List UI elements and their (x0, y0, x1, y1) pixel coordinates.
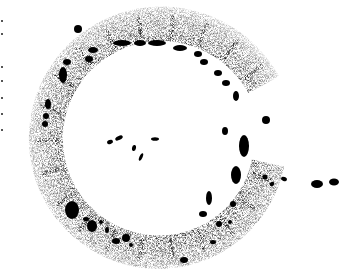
dark-blob (231, 166, 241, 184)
scattered-fragments (106, 134, 339, 188)
edge-mark (1, 80, 3, 82)
dark-blob (200, 59, 208, 65)
dark-blob (83, 217, 89, 221)
dark-blob (88, 47, 98, 53)
dark-blob (180, 257, 188, 263)
fragment (106, 139, 113, 145)
dark-blob (262, 116, 270, 124)
fragment (151, 137, 159, 141)
dark-blob (112, 238, 120, 244)
edge-mark (1, 97, 3, 99)
fragment (138, 153, 144, 162)
dark-blob (45, 99, 51, 109)
dark-blob (222, 127, 228, 135)
dark-blob (214, 70, 222, 76)
dark-blob (230, 201, 236, 207)
fragment (329, 179, 339, 186)
dark-blob (239, 135, 249, 157)
dark-blob (99, 220, 103, 224)
dark-blob (65, 201, 79, 219)
edge-marks (1, 20, 3, 131)
dark-blob (85, 56, 93, 62)
dark-blob (113, 40, 131, 46)
fragment (263, 175, 268, 180)
dark-blob (134, 40, 146, 46)
striation (170, 239, 172, 260)
dark-blob (228, 220, 232, 224)
dark-blob (43, 113, 49, 119)
edge-mark (1, 129, 3, 131)
fragment (311, 180, 323, 188)
dark-blob (222, 80, 230, 86)
dark-blob (59, 67, 67, 83)
fragment (115, 134, 124, 141)
dark-blob (122, 234, 130, 242)
dark-blob (129, 243, 133, 247)
dark-blob (199, 211, 207, 217)
edge-mark (1, 66, 3, 68)
dark-blob (210, 240, 216, 244)
micrograph-stage (0, 0, 347, 269)
dark-blob (87, 220, 97, 232)
dark-blob (74, 25, 82, 33)
striation (171, 15, 173, 38)
dark-blob (42, 121, 48, 127)
dark-blob (105, 227, 109, 233)
ring-micrograph (0, 0, 347, 269)
dark-blob (148, 40, 166, 46)
dark-blob (206, 191, 212, 205)
fragment (132, 145, 137, 152)
dark-blob (216, 221, 222, 227)
edge-mark (1, 20, 3, 22)
dark-blob (194, 51, 202, 57)
dark-blob (63, 59, 71, 65)
edge-mark (1, 33, 3, 35)
edge-mark (1, 113, 3, 115)
dark-blob (173, 45, 187, 51)
dark-blob (233, 91, 239, 101)
fragment (280, 176, 287, 182)
